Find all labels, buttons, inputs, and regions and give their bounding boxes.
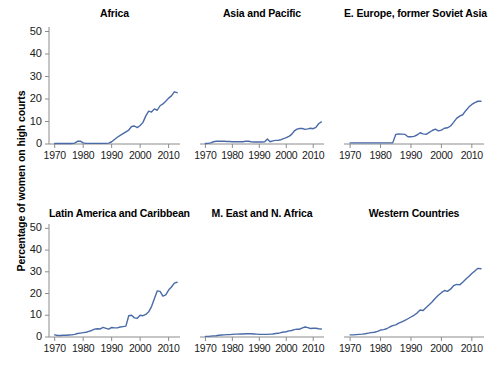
panel-title: M. East and N. Africa [200, 207, 324, 219]
x-axis-tick-label: 2010 [456, 342, 488, 354]
y-axis-tick-label: 50 [15, 221, 42, 233]
y-axis-tick-label: 30 [15, 265, 42, 277]
x-axis-tick-label: 1990 [96, 342, 128, 354]
x-axis-tick-label: 2000 [124, 149, 156, 161]
x-axis-tick-label: 1980 [67, 149, 99, 161]
x-axis-tick-label: 2000 [425, 149, 457, 161]
plot-area [200, 27, 324, 152]
panel-title: Africa [49, 7, 180, 19]
y-axis-tick-label: 10 [15, 115, 42, 127]
x-axis-tick-label: 1970 [39, 342, 71, 354]
x-axis-tick-label: 1970 [334, 342, 366, 354]
panel-title: E. Europe, former Soviet Asia [344, 7, 484, 19]
data-series-line [205, 122, 321, 144]
data-series-line [350, 268, 481, 335]
y-axis-tick-label: 0 [15, 137, 42, 149]
plot-area [344, 224, 484, 345]
panel-title: Asia and Pacific [200, 7, 324, 19]
y-axis-tick-label: 50 [15, 25, 42, 37]
panel-title: Latin America and Caribbean [49, 207, 180, 219]
x-axis-tick-label: 2000 [425, 342, 457, 354]
data-series-line [205, 327, 321, 336]
x-axis-tick-label: 2000 [124, 342, 156, 354]
y-axis-tick-label: 0 [15, 330, 42, 342]
x-axis-tick-label: 1990 [96, 149, 128, 161]
plot-area [49, 27, 180, 152]
x-axis-tick-label: 1980 [365, 342, 397, 354]
x-axis-tick-label: 1970 [39, 149, 71, 161]
data-series-line [55, 282, 177, 335]
panel-title: Western Countries [344, 207, 484, 219]
y-axis-tick-label: 30 [15, 70, 42, 82]
plot-area [49, 224, 180, 345]
x-axis-tick-label: 2010 [456, 149, 488, 161]
data-series-line [350, 101, 481, 143]
x-axis-tick-label: 1970 [334, 149, 366, 161]
y-axis-tick-label: 40 [15, 47, 42, 59]
x-axis-tick-label: 1990 [395, 342, 427, 354]
figure-small-multiples: Percentage of women on high courts Afric… [0, 0, 495, 377]
y-axis-tick-label: 20 [15, 287, 42, 299]
plot-area [200, 224, 324, 345]
y-axis-tick-label: 10 [15, 308, 42, 320]
x-axis-tick-label: 1980 [67, 342, 99, 354]
y-axis-tick-label: 20 [15, 92, 42, 104]
y-axis-tick-label: 40 [15, 243, 42, 255]
x-axis-tick-label: 1990 [395, 149, 427, 161]
data-series-line [55, 92, 177, 144]
plot-area [344, 27, 484, 152]
x-axis-tick-label: 1980 [365, 149, 397, 161]
